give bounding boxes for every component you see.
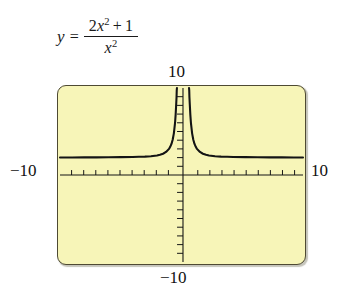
numerator-constant: 1 [125, 17, 133, 34]
equation-lhs: y [57, 27, 68, 47]
denominator-exponent: 2 [112, 38, 117, 49]
numerator-operator: + [110, 17, 125, 34]
curve-left-branch [60, 88, 177, 158]
graph-figure: y = 2x2+1 x2 [0, 0, 349, 306]
calculator-screen [57, 85, 306, 265]
equation-denominator: x2 [101, 37, 122, 56]
curve-right-branch [189, 88, 303, 158]
equation-fraction: 2x2+1 x2 [84, 18, 138, 56]
equation-numerator: 2x2+1 [85, 18, 137, 36]
x-min-label: −10 [10, 161, 37, 181]
equation-relation: = [68, 28, 84, 46]
x-max-label: 10 [311, 161, 328, 181]
equation-expression: y = 2x2+1 x2 [57, 18, 138, 56]
y-min-label: −10 [160, 268, 187, 288]
y-max-label: 10 [168, 62, 185, 82]
numerator-exponent: 2 [104, 16, 109, 27]
plot-canvas [58, 86, 305, 264]
denominator-variable: x [105, 39, 112, 56]
numerator-coefficient: 2 [89, 17, 97, 34]
